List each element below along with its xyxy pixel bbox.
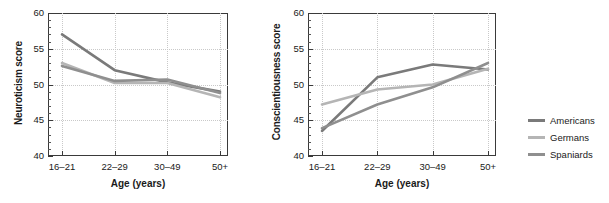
x-tick-label: 30–49 — [408, 161, 458, 172]
legend-label: Americans — [550, 116, 595, 126]
legend-item-spaniards[interactable]: Spaniards — [528, 146, 608, 163]
x-tick-label: 30–49 — [142, 161, 192, 172]
x-tick-label: 16–21 — [297, 161, 347, 172]
y-tick-label: 50 — [24, 80, 44, 89]
y-tick-label: 45 — [24, 115, 44, 124]
legend-item-germans[interactable]: Germans — [528, 129, 608, 146]
y-tick-label: 55 — [24, 44, 44, 53]
x-axis-title-conscientiousness: Age (years) — [308, 178, 496, 189]
plot-area-neuroticism: 4045505560 — [48, 13, 228, 156]
legend-swatch-icon — [528, 153, 545, 156]
x-tick-label: 16–21 — [37, 161, 87, 172]
x-axis-title-neuroticism: Age (years) — [48, 178, 228, 189]
y-tick-label: 50 — [284, 80, 304, 89]
series-line-spaniards — [322, 63, 488, 128]
chart-panel-neuroticism: Neuroticism score 4045505560 16–2122–293… — [0, 0, 258, 203]
series-lines-conscientiousness — [308, 13, 496, 156]
y-tick-major — [48, 156, 53, 157]
chart-panel-conscientiousness: Conscientiousness score 4045505560 16–21… — [258, 0, 528, 203]
figure-root: Neuroticism score 4045505560 16–2122–293… — [0, 0, 609, 203]
legend-swatch-icon — [528, 119, 545, 122]
y-tick-label: 40 — [284, 151, 304, 160]
x-tick-label: 22–29 — [90, 161, 140, 172]
legend-label: Spaniards — [550, 150, 593, 160]
plot-area-conscientiousness: 4045505560 — [308, 13, 496, 156]
legend-item-americans[interactable]: Americans — [528, 112, 608, 129]
legend-label: Germans — [550, 133, 589, 143]
x-tick-label: 22–29 — [352, 161, 402, 172]
y-tick-label: 40 — [24, 151, 44, 160]
y-tick-label: 60 — [24, 8, 44, 17]
x-tick-label: 50+ — [195, 161, 245, 172]
legend-swatch-icon — [528, 136, 545, 139]
y-tick-label: 55 — [284, 44, 304, 53]
legend: AmericansGermansSpaniards — [528, 112, 608, 163]
y-tick-label: 45 — [284, 115, 304, 124]
y-axis-title-conscientiousness: Conscientiousness score — [270, 2, 284, 162]
x-tick-label: 50+ — [463, 161, 513, 172]
series-line-spaniards — [62, 66, 220, 93]
series-lines-neuroticism — [48, 13, 228, 156]
y-tick-major — [308, 156, 313, 157]
y-tick-label: 60 — [284, 8, 304, 17]
